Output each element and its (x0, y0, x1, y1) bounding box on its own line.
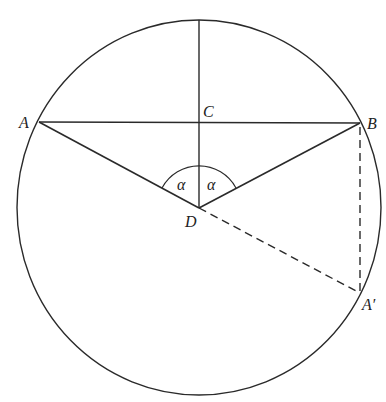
segment-ad (39, 122, 199, 208)
dashed-segment-d-a-prime (199, 208, 360, 293)
label-d: D (184, 213, 197, 230)
label-alpha-left: α (177, 176, 186, 193)
label-alpha-right: α (207, 176, 216, 193)
label-c: C (203, 103, 214, 120)
label-b: B (367, 115, 377, 132)
label-a-prime: A′ (361, 296, 376, 313)
geometry-diagram: A B C D A′ α α (0, 0, 386, 402)
label-a: A (18, 114, 29, 131)
segment-bd (199, 123, 360, 208)
